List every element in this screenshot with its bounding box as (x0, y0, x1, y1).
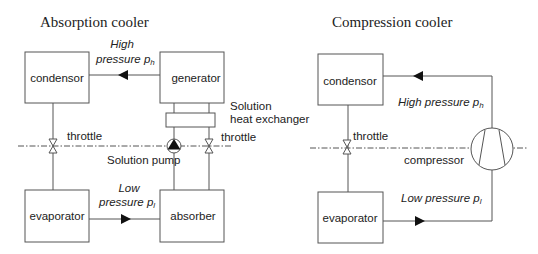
compressor-icon (471, 128, 513, 170)
high-pressure-label-2: pressure ph (95, 53, 155, 67)
high-pressure-label: High pressure ph (398, 96, 484, 110)
solution-heat-exchanger (166, 113, 215, 127)
condensor-label: condensor (323, 75, 377, 87)
high-pressure-label-1: High (110, 38, 134, 50)
low-pressure-label: Low pressure pl (401, 192, 482, 206)
solution-pump-icon (167, 139, 181, 153)
compressor-label: compressor (404, 154, 464, 166)
compression-title: Compression cooler (332, 14, 452, 30)
evaporator-label: evaporator (323, 212, 378, 224)
absorption-title: Absorption cooler (40, 14, 149, 30)
low-pressure-label-2: pressure pl (98, 196, 155, 210)
throttle-label: throttle (353, 130, 388, 142)
cooler-diagram: Absorption cooler High pressure ph Solut… (0, 0, 538, 254)
throttle-valve-icon (343, 140, 351, 154)
arrow-left-icon (413, 71, 423, 81)
evaporator-label: evaporator (30, 210, 85, 222)
absorber-label: absorber (170, 210, 216, 222)
arrow-right-icon (415, 216, 425, 226)
arrow-right-icon (121, 214, 131, 224)
generator-label: generator (171, 72, 220, 84)
throttle-left-label: throttle (67, 130, 102, 142)
hx-label-1: Solution (230, 100, 272, 112)
throttle-right-label: throttle (221, 131, 256, 143)
arrow-left-icon (118, 70, 128, 80)
low-pressure-label-1: Low (118, 182, 140, 194)
hx-label-2: heat exchanger (230, 113, 309, 125)
condensor-label: condensor (30, 72, 84, 84)
solution-pump-label: Solution pump (107, 154, 181, 166)
